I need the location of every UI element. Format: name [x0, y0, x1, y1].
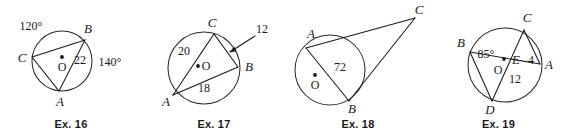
figure-ex17: O C B A 20 18 12 Ex. 17 — [142, 0, 286, 134]
point-a-label: A — [55, 94, 64, 109]
caption-ex18: Ex. 18 — [286, 118, 430, 130]
point-b-label: B — [84, 21, 92, 36]
point-e-label: E — [511, 52, 520, 67]
point-a-label: A — [161, 94, 170, 109]
figure-ex19: O C B A E D 85° 4 12 Ex. 19 — [430, 0, 567, 134]
center-label-o: O — [311, 78, 320, 92]
center-label-o: O — [494, 63, 503, 77]
segment-ea-measure-label: 4 — [528, 53, 534, 67]
geometry-figure-strip: O B C A 120° 140° 22 Ex. 16 O C B A 20 — [0, 0, 567, 134]
center-label-o: O — [58, 60, 67, 74]
figure-ex16-drawing: O B C A 120° 140° 22 — [0, 0, 142, 134]
point-c-label: C — [18, 50, 27, 65]
arc-cb-measure-label: 120° — [20, 19, 43, 33]
center-dot-icon — [502, 57, 506, 61]
figure-ex18-drawing: O A C B 72 — [286, 0, 430, 134]
angle-e-measure-label: 85° — [478, 47, 495, 61]
caption-ex16: Ex. 16 — [0, 118, 142, 130]
secant-cb — [349, 18, 415, 101]
point-b-label: B — [245, 59, 253, 74]
point-b-label: B — [348, 101, 356, 116]
figure-ex18: O A C B 72 Ex. 18 — [286, 0, 430, 134]
caption-ex19: Ex. 19 — [430, 118, 567, 130]
point-a-label: A — [544, 57, 553, 72]
chord-cb-measure-label: 12 — [256, 22, 268, 36]
chord-ab-measure-label: 18 — [198, 81, 210, 95]
segment-ed-measure-label: 12 — [509, 72, 521, 86]
chord-ba-measure-label: 22 — [74, 53, 86, 67]
chord-ac-measure-label: 20 — [178, 44, 190, 58]
caption-ex17: Ex. 17 — [142, 118, 286, 130]
secant-ca — [306, 18, 415, 48]
center-dot-icon — [196, 64, 200, 68]
arc-ba-measure-label: 140° — [99, 55, 122, 69]
point-c-label: C — [208, 15, 217, 30]
figure-ex19-drawing: O C B A E D 85° 4 12 — [430, 0, 567, 134]
center-dot-icon — [313, 73, 317, 77]
leader-arrowhead-icon — [230, 47, 236, 52]
chord-ab — [306, 48, 349, 101]
figure-ex16: O B C A 120° 140° 22 Ex. 16 — [0, 0, 142, 134]
point-d-label: D — [484, 102, 495, 117]
point-a-label: A — [306, 26, 315, 41]
center-label-o: O — [202, 59, 211, 73]
point-c-label: C — [415, 2, 424, 17]
arc-ab-measure-label: 72 — [334, 60, 346, 74]
point-b-label: B — [457, 35, 465, 50]
figure-ex17-drawing: O C B A 20 18 12 — [142, 0, 286, 134]
point-c-label: C — [523, 10, 532, 25]
center-dot-icon — [60, 55, 64, 59]
